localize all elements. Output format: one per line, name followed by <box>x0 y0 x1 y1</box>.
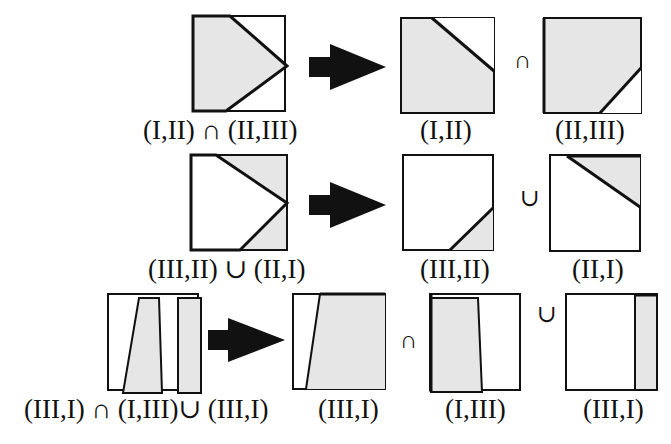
row1-result-label-2: (II,III) <box>555 117 625 144</box>
row1-result-label-1: (I,II) <box>420 117 472 144</box>
row3-result-label-1: (III,I) <box>318 396 379 423</box>
intersection-operator: ∩ <box>400 328 417 352</box>
right-arrow-icon <box>208 318 285 362</box>
row2-result-square-1 <box>403 155 493 250</box>
row2-source-label: (III,II) ∪ (II,I) <box>148 256 306 283</box>
row3-result-label-3: (III,I) <box>583 396 644 423</box>
row1-result-square-2 <box>544 18 641 113</box>
row3-result-square-1 <box>293 294 385 389</box>
diagram-canvas <box>0 0 671 444</box>
row3-result-label-2: (I,III) <box>445 396 506 423</box>
right-arrow-icon <box>309 182 386 228</box>
row2-result-square-2 <box>550 155 640 251</box>
right-arrow-icon <box>309 44 386 90</box>
row3-result-square-2 <box>430 294 520 392</box>
intersection-operator: ∩ <box>514 48 531 72</box>
row3-result-square-3 <box>566 294 657 390</box>
row2-result-label-1: (III,II) <box>420 256 490 283</box>
row2-source-square <box>191 155 287 250</box>
row1-result-square-1 <box>401 18 494 113</box>
row1-source-label: (I,II) ∩ (II,III) <box>143 117 297 144</box>
row3-source-label: (III,I) ∩ (I,III)∪ (III,I) <box>24 396 268 423</box>
row3-source-square <box>108 294 201 393</box>
union-operator: ∪ <box>520 186 540 210</box>
row2-result-label-2: (II,I) <box>572 256 624 283</box>
row1-source-square <box>193 16 287 111</box>
union-operator: ∪ <box>537 302 557 326</box>
